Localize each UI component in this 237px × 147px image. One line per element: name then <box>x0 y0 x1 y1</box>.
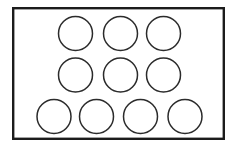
row-middle <box>59 58 181 92</box>
circle-r1-c1 <box>59 17 93 51</box>
circle-r1-c3 <box>147 17 181 51</box>
diagram-canvas <box>0 0 237 147</box>
circle-r1-c2 <box>104 17 138 51</box>
circle-r2-c2 <box>104 58 138 92</box>
circle-r3-c4 <box>168 100 202 134</box>
circle-r2-c1 <box>59 58 93 92</box>
circle-r3-c1 <box>37 100 71 134</box>
circle-r2-c3 <box>147 58 181 92</box>
circle-r3-c3 <box>124 100 158 134</box>
row-top <box>59 17 181 51</box>
circle-r3-c2 <box>80 100 114 134</box>
circles-in-rectangle-diagram <box>0 0 237 147</box>
